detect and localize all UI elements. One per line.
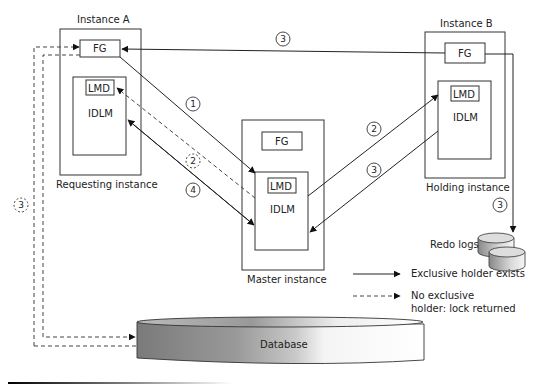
- step-badge-3-redo: 3: [493, 198, 507, 212]
- master-caption: Master instance: [247, 274, 327, 285]
- lock-flow-diagram: Instance A FG LMD IDLM Requesting instan…: [0, 0, 538, 384]
- step-badge-3-master: 3: [367, 163, 381, 177]
- instance-a-fg-label: FG: [93, 43, 107, 54]
- database: Database: [137, 317, 424, 364]
- svg-text:3: 3: [280, 34, 286, 44]
- step-badge-2-holder: 2: [367, 122, 381, 136]
- master-lmd-label: LMD: [270, 181, 292, 192]
- redo-logs: Redo logs: [430, 233, 525, 271]
- instance-a-caption: Requesting instance: [56, 179, 158, 190]
- svg-text:2: 2: [190, 156, 196, 166]
- instance-b-lmd-label: LMD: [453, 89, 475, 100]
- svg-text:2: 2: [371, 124, 377, 134]
- instance-a-idlm-label: IDLM: [88, 108, 113, 119]
- instance-a-title: Instance A: [77, 14, 130, 25]
- master-idlm-label: IDLM: [270, 204, 295, 215]
- instance-a: Instance A FG LMD IDLM Requesting instan…: [56, 14, 158, 190]
- step-badge-1: 1: [186, 97, 200, 111]
- svg-text:4: 4: [190, 185, 196, 195]
- legend-dashed-label-1: No exclusive: [411, 290, 474, 301]
- database-label: Database: [260, 339, 308, 350]
- instance-b-fg-label: FG: [458, 48, 472, 59]
- arrow-step4-to-master: [128, 120, 254, 225]
- instance-b: Instance B FG LMD IDLM Holding instance: [425, 18, 510, 193]
- arrow-step3-block-transfer: [122, 49, 445, 53]
- legend-solid-label: Exclusive holder exists: [411, 268, 525, 279]
- instance-b-title: Instance B: [440, 18, 493, 29]
- svg-text:1: 1: [190, 99, 196, 109]
- step-badge-4: 4: [186, 183, 200, 197]
- step-badge-3-left-dashed: 3: [14, 198, 28, 212]
- svg-text:3: 3: [497, 200, 503, 210]
- redo-logs-label: Redo logs: [430, 239, 479, 250]
- legend-dashed-label-2: holder: lock returned: [411, 303, 516, 314]
- instance-b-idlm-label: IDLM: [453, 112, 478, 123]
- step-badge-3-top: 3: [276, 32, 290, 46]
- master-instance: FG LMD IDLM Master instance: [242, 120, 327, 285]
- instance-b-caption: Holding instance: [426, 182, 510, 193]
- legend: Exclusive holder exists No exclusive hol…: [353, 268, 525, 314]
- arrow-step3-to-master: [310, 131, 438, 232]
- svg-text:3: 3: [371, 165, 377, 175]
- svg-text:3: 3: [18, 200, 24, 210]
- master-fg-label: FG: [275, 136, 289, 147]
- arrow-step2-to-holder: [308, 95, 438, 196]
- step-badge-2-dashed: 2: [186, 154, 200, 168]
- instance-a-lmd-label: LMD: [88, 83, 110, 94]
